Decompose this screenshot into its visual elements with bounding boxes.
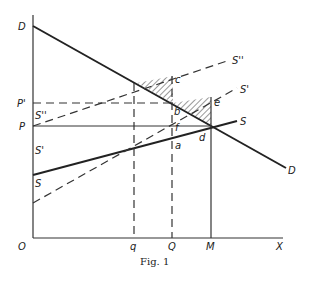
quantity-label-Q: Q (168, 241, 176, 252)
point-label-d: d (199, 132, 206, 143)
supply-demand-diagram: D D P' P S'' S' S S'' S' S c e b f d a O… (0, 0, 310, 283)
supply-curve-s-prime (33, 88, 237, 203)
supply-curve-s (33, 121, 237, 175)
figure-caption: Fig. 1 (140, 256, 169, 267)
demand-label-left: D (18, 21, 26, 32)
supply-label-right: S (240, 116, 247, 127)
supply-label-left: S (35, 178, 42, 189)
demand-curve (33, 26, 286, 168)
quantity-label-M: M (206, 241, 215, 252)
origin-label: O (18, 241, 26, 252)
point-label-c: c (175, 74, 181, 85)
demand-label-right: D (288, 165, 296, 176)
point-label-e: e (214, 97, 220, 108)
quantity-label-q: q (130, 241, 136, 252)
point-label-f: f (175, 122, 180, 133)
x-axis-label: X (275, 241, 284, 252)
point-label-a: a (175, 140, 181, 151)
supply-prime-label-left: S' (35, 145, 44, 156)
supply-prime-label-right: S' (240, 84, 249, 95)
hatched-area-upper (137, 76, 173, 103)
supply-double-prime-label-right: S'' (232, 55, 244, 66)
point-label-b: b (174, 106, 180, 117)
price-label-p-prime: P' (17, 98, 26, 109)
supply-double-prime-label-left: S'' (35, 110, 47, 121)
price-label-p: P (19, 121, 26, 132)
